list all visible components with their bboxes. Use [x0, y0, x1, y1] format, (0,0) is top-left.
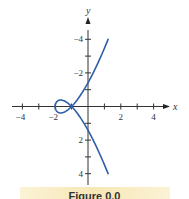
y-tick-label: 2: [79, 135, 84, 145]
y-tick-label: −2: [73, 68, 83, 78]
x-tick-label: −2: [48, 112, 58, 122]
x-axis-arrow-icon: [163, 104, 170, 109]
y-axis-label: y: [85, 5, 91, 16]
plot-area: −4−22442−2−4xy: [0, 0, 189, 199]
x-axis-label: x: [172, 101, 178, 112]
x-tick-label: 2: [119, 112, 124, 122]
x-tick-label: 4: [151, 112, 156, 122]
x-tick-label: −4: [16, 112, 26, 122]
y-axis-arrow-icon: [86, 17, 91, 24]
chart-figure: −4−22442−2−4xy Figure 0.0: [0, 0, 189, 199]
y-tick-label: −4: [73, 34, 83, 44]
figure-caption: Figure 0.0: [0, 190, 189, 199]
y-tick-label: 4: [79, 169, 84, 179]
